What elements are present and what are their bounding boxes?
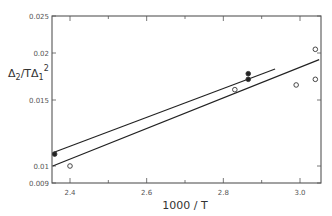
lower-fit-line <box>53 60 319 166</box>
plot-frame <box>52 16 321 183</box>
filled-data-point <box>246 71 251 76</box>
filled-data-point <box>246 77 251 82</box>
open-data-point <box>233 87 238 92</box>
x-axis-title: 1000 / T <box>162 199 208 212</box>
y-tick-label: 0.009 <box>29 180 49 188</box>
y-tick-label: 0.025 <box>29 13 49 21</box>
upper-fit-line <box>53 69 275 153</box>
y-tick-label: 0.015 <box>29 97 49 105</box>
chart: 2.42.62.83.00.0090.010.0150.020.0251000 … <box>0 0 332 216</box>
y-tick-label: 0.01 <box>33 163 49 171</box>
open-data-point <box>68 164 73 169</box>
x-tick-label: 3.0 <box>294 189 305 197</box>
x-tick-label: 2.4 <box>64 189 76 197</box>
y-tick-label: 0.02 <box>33 50 49 58</box>
open-data-point <box>294 83 299 88</box>
open-data-point <box>313 47 318 52</box>
x-tick-label: 2.8 <box>218 189 229 197</box>
y-axis-title: Δ2/TΔ12 <box>8 64 49 82</box>
x-tick-label: 2.6 <box>141 189 153 197</box>
filled-data-point <box>52 152 57 157</box>
open-data-point <box>313 77 318 82</box>
